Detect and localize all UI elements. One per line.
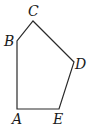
vertex-label-e: E: [53, 112, 63, 126]
vertex-label-b: B: [4, 34, 14, 48]
vertex-label-a: A: [12, 112, 22, 126]
vertex-label-c: C: [28, 4, 39, 18]
vertex-label-d: D: [75, 57, 86, 71]
pentagon-abcde: [17, 21, 74, 109]
